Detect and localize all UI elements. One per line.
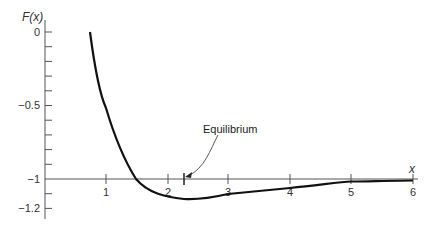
x-tick-label-6: 6 (410, 186, 416, 198)
arrowhead-icon (185, 172, 192, 178)
x-tick-label-3: 3 (225, 186, 231, 198)
x-tick-label-5: 5 (348, 186, 354, 198)
f-curve (90, 32, 413, 199)
y-tick-label-neg1: −1 (27, 173, 40, 185)
x-axis-title: x (408, 162, 416, 176)
x-tick-label-1: 1 (103, 186, 109, 198)
y-tick-label-neg0.5: −0.5 (18, 99, 40, 111)
y-axis-title: F(x) (22, 10, 43, 24)
equilibrium-label: Equilibrium (203, 123, 257, 135)
y-tick-label-0: 0 (34, 26, 40, 38)
y-ticks (45, 32, 52, 208)
annotation-arrow (188, 135, 218, 176)
chart: 0 −0.5 −1 −1.2 1 2 3 4 5 6 F(x) x Equili… (0, 0, 434, 229)
y-tick-label-neg1.2: −1.2 (18, 202, 40, 214)
